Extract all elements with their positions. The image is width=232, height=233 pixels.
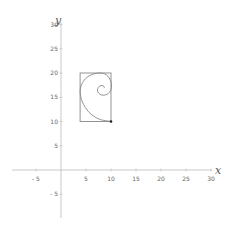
- spiral-plot: - 551015202530- 551015202530 x y: [0, 0, 232, 233]
- x-tick-label: 15: [132, 175, 140, 182]
- start-point: [110, 120, 113, 123]
- axes: [12, 23, 212, 219]
- x-axis-label: x: [215, 164, 222, 177]
- x-tick-label: 5: [84, 175, 88, 182]
- y-tick-label: 25: [50, 45, 58, 52]
- y-tick-label: 20: [50, 69, 58, 76]
- x-tick-label: - 5: [32, 175, 40, 182]
- y-axis-label: y: [54, 14, 62, 27]
- golden-spiral: [80, 73, 111, 122]
- x-tick-label: 25: [182, 175, 190, 182]
- ticks: - 551015202530- 551015202530: [32, 21, 215, 198]
- x-tick-label: 30: [207, 175, 215, 182]
- x-tick-label: 20: [157, 175, 165, 182]
- shapes: [80, 73, 112, 123]
- y-tick-label: 5: [54, 142, 58, 149]
- y-tick-label: - 5: [50, 190, 58, 197]
- x-tick-label: 10: [107, 175, 115, 182]
- y-tick-label: 10: [50, 118, 58, 125]
- y-tick-label: 15: [50, 93, 58, 100]
- golden-rectangle: [80, 73, 111, 122]
